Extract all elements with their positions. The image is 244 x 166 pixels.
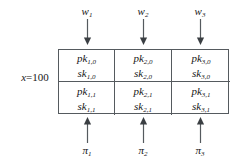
- public-key-label: pk2,0: [133, 53, 152, 64]
- public-key-label: pk3,0: [191, 53, 210, 64]
- output-group-pi3: π3: [180, 117, 220, 156]
- output-subscript-pi3: 3: [201, 150, 205, 158]
- grid-cell-1-0: pk1,0 sk1,0: [59, 50, 115, 82]
- input-subscript-w1: 1: [89, 11, 93, 19]
- input-label-w3: w3: [180, 6, 220, 17]
- figure-canvas: x=100 w1 w2 w3 pk1,0 sk1,0 pk2,0 sk2,0: [0, 0, 244, 166]
- secret-key-label: sk1,1: [78, 101, 96, 112]
- secret-key-label: sk3,1: [192, 101, 210, 112]
- input-label-w1: w1: [67, 6, 107, 17]
- up-arrow-icon: [139, 117, 148, 143]
- output-group-pi2: π2: [123, 117, 163, 156]
- input-label-w2: w2: [123, 6, 163, 17]
- secret-key-label: sk3,0: [192, 68, 210, 79]
- grid-cell-1-1: pk1,1 sk1,1: [59, 82, 115, 115]
- secret-key-label: sk2,0: [134, 68, 152, 79]
- public-key-label: pk3,1: [191, 86, 210, 97]
- secret-key-label: sk2,1: [134, 101, 152, 112]
- key-grid: pk1,0 sk1,0 pk2,0 sk2,0 pk3,0 sk3,0 pk1,…: [58, 49, 229, 114]
- down-arrow-icon: [139, 19, 148, 46]
- input-group-w1: w1: [67, 6, 107, 46]
- grid-cell-3-1: pk3,1 sk3,1: [172, 82, 230, 115]
- output-label-pi1: π1: [67, 145, 107, 156]
- up-arrow-icon: [196, 117, 205, 143]
- output-subscript-pi1: 1: [88, 150, 92, 158]
- public-key-label: pk2,1: [133, 86, 152, 97]
- grid-cell-3-0: pk3,0 sk3,0: [172, 50, 230, 82]
- grid-cell-2-1: pk2,1 sk2,1: [115, 82, 172, 115]
- public-key-label: pk1,1: [77, 86, 96, 97]
- input-subscript-w3: 3: [202, 11, 206, 19]
- down-arrow-icon: [196, 19, 205, 46]
- grid-cell-2-0: pk2,0 sk2,0: [115, 50, 172, 82]
- x-value-label: x=100: [14, 72, 56, 83]
- output-subscript-pi2: 2: [144, 150, 148, 158]
- input-subscript-w2: 2: [145, 11, 149, 19]
- output-group-pi1: π1: [67, 117, 107, 156]
- secret-key-label: sk1,0: [78, 68, 96, 79]
- output-label-pi3: π3: [180, 145, 220, 156]
- down-arrow-icon: [83, 19, 92, 46]
- output-label-pi2: π2: [123, 145, 163, 156]
- input-group-w3: w3: [180, 6, 220, 46]
- up-arrow-icon: [83, 117, 92, 143]
- public-key-label: pk1,0: [77, 53, 96, 64]
- x-number: 100: [32, 71, 49, 83]
- input-group-w2: w2: [123, 6, 163, 46]
